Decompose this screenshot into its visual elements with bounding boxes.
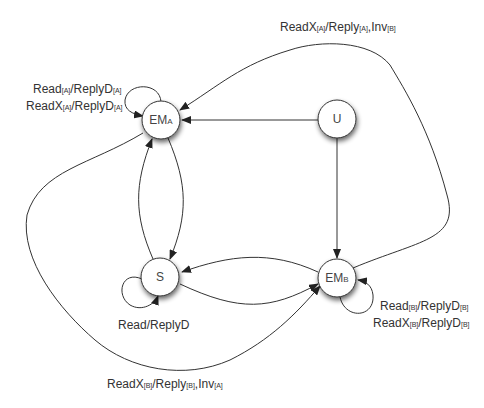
label-part: ,Inv (195, 377, 214, 391)
label-part: ReadX (107, 377, 144, 391)
label-part: /Reply (325, 20, 359, 34)
label-sub: [B] (186, 382, 195, 389)
label-part: ,Inv (368, 20, 387, 34)
label-sub: [A] (62, 87, 71, 94)
label-part: ReadX (26, 99, 63, 113)
node-ema-label-main: EM (149, 113, 167, 127)
edge-label-emb-loop-2: ReadX[B]/ReplyD[B] (373, 316, 470, 332)
label-sub: [B] (460, 304, 469, 311)
label-part: ReadX (280, 20, 317, 34)
edge-label-ema-loop-2: ReadX[A]/ReplyD[A] (26, 99, 123, 115)
label-part: Read (33, 82, 62, 96)
label-part: /Reply (152, 377, 186, 391)
edge-emb-to-s (182, 257, 318, 272)
label-part: /ReplyD (418, 316, 461, 330)
label-part: Read (380, 299, 409, 313)
node-ema-label-sub: A (167, 117, 172, 126)
edge-s-to-ema (139, 139, 153, 259)
node-emb-label: EMB (317, 271, 357, 287)
edge-label-emb-loop-1: Read[B]/ReplyD[B] (380, 299, 469, 315)
edge-ema-to-s (168, 138, 183, 259)
node-s-label: S (140, 270, 180, 284)
label-part: /ReplyD (417, 299, 460, 313)
label-sub: [B] (461, 321, 470, 328)
label-sub: [A] (113, 87, 122, 94)
label-sub: [B] (387, 25, 396, 32)
label-part: /ReplyD (71, 99, 114, 113)
node-emb-label-sub: B (343, 275, 348, 284)
node-emb-label-main: EM (325, 271, 343, 285)
label-sub: [A] (63, 104, 72, 111)
label-sub: [B] (410, 321, 419, 328)
edge-label-s-loop: Read/ReplyD (118, 318, 189, 332)
edge-label-ema-loop-1: Read[A]/ReplyD[A] (33, 82, 122, 98)
node-ema-label: EMA (141, 113, 181, 129)
edge-label-ema-to-emb: ReadX[B]/Reply[B],Inv[A] (107, 377, 223, 393)
label-sub: [A] (214, 382, 223, 389)
edge-label-emb-to-ema: ReadX[A]/Reply[A],Inv[B] (280, 20, 396, 36)
label-sub: [B] (409, 304, 418, 311)
label-sub: [A] (359, 25, 368, 32)
label-sub: [A] (317, 25, 326, 32)
edge-emb-to-ema (180, 44, 449, 268)
label-sub: [B] (144, 382, 153, 389)
edge-s-to-emb (180, 284, 318, 304)
label-part: ReadX (373, 316, 410, 330)
state-diagram-canvas (0, 0, 484, 408)
label-sub: [A] (114, 104, 123, 111)
node-u-label: U (317, 112, 357, 126)
label-part: /ReplyD (70, 82, 113, 96)
